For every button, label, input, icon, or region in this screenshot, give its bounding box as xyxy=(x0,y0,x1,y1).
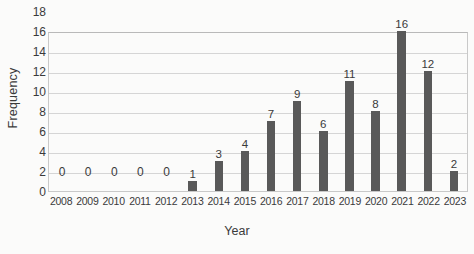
x-tick-label: 2011 xyxy=(127,195,153,207)
y-tick-label: 0 xyxy=(39,185,46,199)
y-axis-title: Frequency xyxy=(2,0,24,195)
bar[interactable]: 4 xyxy=(241,151,250,191)
bar[interactable]: 7 xyxy=(267,121,276,191)
bar[interactable]: 1 xyxy=(188,181,197,191)
bar[interactable]: 9 xyxy=(293,101,302,191)
x-tick-label: 2010 xyxy=(101,195,127,207)
bar-slot: 4 xyxy=(232,33,258,191)
plot-area: 0000013479611816122 xyxy=(48,32,468,192)
bar-value-label: 0 xyxy=(85,165,92,179)
bar[interactable]: 12 xyxy=(424,71,433,191)
x-tick-label: 2019 xyxy=(337,195,363,207)
bar-value-label: 4 xyxy=(242,138,248,150)
bar-value-label: 8 xyxy=(372,98,378,110)
y-tick-label: 10 xyxy=(33,85,46,99)
x-tick-label: 2020 xyxy=(363,195,389,207)
bar-value-label: 9 xyxy=(294,88,300,100)
x-tick-label: 2009 xyxy=(74,195,100,207)
x-tick-label: 2012 xyxy=(153,195,179,207)
y-tick-label: 2 xyxy=(39,165,46,179)
x-tick-label: 2013 xyxy=(179,195,205,207)
x-axis-title: Year xyxy=(0,224,474,238)
bar-slot: 0 xyxy=(101,33,127,191)
bar-slot: 3 xyxy=(206,33,232,191)
bar[interactable]: 2 xyxy=(450,171,459,191)
bar-slot: 2 xyxy=(441,33,467,191)
x-tick-label: 2017 xyxy=(284,195,310,207)
x-axis-tick-labels: 2008200920102011201220132014201520162017… xyxy=(48,195,468,207)
bar-slot: 7 xyxy=(258,33,284,191)
y-tick-label: 14 xyxy=(33,45,46,59)
x-tick-label: 2022 xyxy=(416,195,442,207)
bar-slot: 0 xyxy=(49,33,75,191)
bar-value-label: 0 xyxy=(163,165,170,179)
bar-value-label: 12 xyxy=(421,58,434,70)
bar-value-label: 0 xyxy=(137,165,144,179)
bar[interactable]: 6 xyxy=(319,131,328,191)
y-tick-label: 8 xyxy=(39,105,46,119)
bar-value-label: 6 xyxy=(320,118,326,130)
bar-value-label: 0 xyxy=(59,165,66,179)
x-tick-label: 2016 xyxy=(258,195,284,207)
y-tick-label: 4 xyxy=(39,145,46,159)
x-tick-label: 2018 xyxy=(311,195,337,207)
bar-slot: 12 xyxy=(415,33,441,191)
bar-slot: 11 xyxy=(336,33,362,191)
bar[interactable]: 11 xyxy=(345,81,354,191)
bar-slot: 8 xyxy=(363,33,389,191)
bar-value-label: 0 xyxy=(111,165,118,179)
bar-value-label: 11 xyxy=(343,68,355,80)
bar-series: 0000013479611816122 xyxy=(49,33,467,191)
bar[interactable]: 3 xyxy=(215,161,224,191)
x-tick-label: 2008 xyxy=(48,195,74,207)
bar-slot: 1 xyxy=(180,33,206,191)
bar-value-label: 16 xyxy=(395,18,408,30)
bar-slot: 16 xyxy=(389,33,415,191)
y-axis-tick-labels: 024681012141618 xyxy=(22,0,46,254)
bar-slot: 9 xyxy=(284,33,310,191)
x-tick-label: 2015 xyxy=(232,195,258,207)
bar-value-label: 3 xyxy=(216,148,222,160)
bar[interactable]: 8 xyxy=(371,111,380,191)
bar-chart-figure: Frequency 024681012141618 00000134796118… xyxy=(0,0,474,254)
y-tick-label: 18 xyxy=(33,5,46,19)
bar-value-label: 1 xyxy=(189,168,195,180)
x-tick-label: 2023 xyxy=(442,195,468,207)
x-tick-label: 2014 xyxy=(206,195,232,207)
bar[interactable]: 16 xyxy=(397,31,406,191)
bar-slot: 6 xyxy=(310,33,336,191)
y-tick-label: 12 xyxy=(33,65,46,79)
bar-value-label: 2 xyxy=(451,158,457,170)
y-axis-title-text: Frequency xyxy=(6,67,20,128)
y-tick-label: 6 xyxy=(39,125,46,139)
bar-slot: 0 xyxy=(154,33,180,191)
bar-value-label: 7 xyxy=(268,108,274,120)
x-tick-label: 2021 xyxy=(389,195,415,207)
bar-slot: 0 xyxy=(75,33,101,191)
y-tick-label: 16 xyxy=(33,25,46,39)
bar-slot: 0 xyxy=(127,33,153,191)
